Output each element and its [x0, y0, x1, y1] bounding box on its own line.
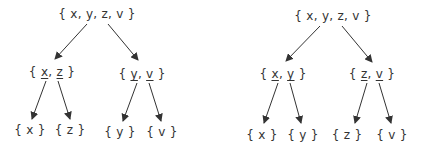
brace-open: { [349, 67, 361, 81]
edge-left-xz-to-z [58, 81, 70, 119]
edge-right-xy-to-x [264, 83, 278, 123]
edge-left-yv-to-y [123, 83, 137, 121]
edge-left-yv-to-v [149, 83, 161, 121]
underlined-var: v [146, 67, 153, 81]
right-leaf-v: { v } [376, 128, 408, 142]
edge-left-xz-to-x [32, 81, 46, 119]
brace-close: } [63, 65, 75, 79]
left-leaf-v: { v } [146, 125, 178, 139]
left-child-yv-node: { y, v } [118, 67, 165, 81]
left-root-node: { x, y, z, v } [58, 7, 136, 21]
edge-left-root-to-yv [108, 24, 138, 60]
right-leaf-y: { y } [287, 128, 319, 142]
brace-open: { [29, 65, 41, 79]
edge-right-xy-to-y [290, 83, 301, 123]
edge-right-zv-to-z [355, 83, 367, 123]
right-child-xy-node: { x, y } [259, 67, 306, 81]
separator: , [48, 65, 56, 79]
edge-right-zv-to-v [379, 83, 391, 123]
right-child-zv-node: { z, v } [349, 67, 395, 81]
edge-left-root-to-xz [55, 24, 87, 59]
left-child-xz-node: { x, z } [29, 65, 75, 79]
right-leaf-z: { z } [332, 128, 363, 142]
separator: , [138, 67, 146, 81]
underlined-var: y [287, 67, 294, 81]
edge-right-root-to-zv [342, 26, 372, 62]
right-leaf-x: { x } [246, 128, 278, 142]
separator: , [367, 67, 375, 81]
brace-close: } [295, 67, 307, 81]
brace-close: } [383, 67, 395, 81]
brace-open: { [118, 67, 130, 81]
separator: , [279, 67, 287, 81]
left-leaf-x: { x } [14, 123, 46, 137]
brace-close: } [154, 67, 166, 81]
underlined-var: z [361, 67, 368, 81]
edge-right-root-to-xy [286, 26, 320, 61]
brace-open: { [259, 67, 271, 81]
right-root-node: { x, y, z, v } [294, 9, 372, 23]
left-leaf-y: { y } [104, 125, 136, 139]
left-leaf-z: { z } [55, 123, 86, 137]
